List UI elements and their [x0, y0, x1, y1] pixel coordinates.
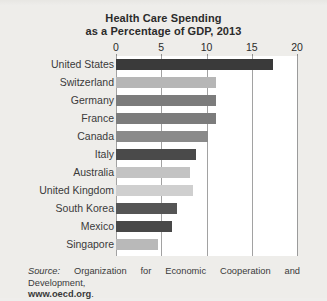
scan-edge-artifact: [0, 0, 327, 6]
bar: [116, 203, 177, 214]
bar: [116, 167, 190, 178]
x-tick-label-5: 5: [158, 41, 164, 53]
bar-row: South Korea: [0, 200, 327, 218]
bar-row: United Kingdom: [0, 182, 327, 200]
chart-title-line-1: Health Care Spending: [0, 12, 327, 25]
category-label: South Korea: [56, 202, 114, 214]
category-label: Italy: [95, 148, 114, 160]
category-label: Mexico: [81, 220, 114, 232]
source-note: Source: Organization for Economic Cooper…: [28, 266, 300, 301]
source-period: .: [91, 289, 94, 299]
bar: [116, 113, 216, 124]
bar-row: United States: [0, 56, 327, 74]
bar: [116, 77, 216, 88]
source-line-1: Source: Organization for Economic Cooper…: [28, 266, 300, 289]
category-label: United Kingdom: [39, 184, 114, 196]
category-label: France: [81, 112, 114, 124]
category-label: United States: [51, 58, 114, 70]
source-line-2: www.oecd.org.: [28, 289, 300, 301]
bar: [116, 221, 172, 232]
x-tick-label-0: 0: [113, 41, 119, 53]
category-label: Canada: [77, 130, 114, 142]
bar-row: Singapore: [0, 236, 327, 254]
x-tick-label-10: 10: [201, 41, 213, 53]
bar-row: Mexico: [0, 218, 327, 236]
bar: [116, 131, 208, 142]
bar-row: Germany: [0, 92, 327, 110]
bar-row: Switzerland: [0, 74, 327, 92]
bar: [116, 239, 158, 250]
bar-row: France: [0, 110, 327, 128]
bar: [116, 185, 193, 196]
source-label: Source:: [28, 266, 60, 276]
category-label: Switzerland: [60, 76, 114, 88]
bar-rows: United StatesSwitzerlandGermanyFranceCan…: [0, 56, 327, 256]
x-tick-label-15: 15: [246, 41, 258, 53]
category-label: Singapore: [66, 238, 114, 250]
source-url: www.oecd.org: [28, 289, 91, 299]
chart-title: Health Care Spending as a Percentage of …: [0, 12, 327, 38]
bar: [116, 149, 196, 160]
source-body: Organization for Economic Cooperation an…: [28, 266, 300, 288]
category-label: Australia: [73, 166, 114, 178]
chart-title-line-2: as a Percentage of GDP, 2013: [0, 25, 327, 38]
bar-row: Australia: [0, 164, 327, 182]
x-axis: 05101520: [0, 41, 327, 55]
bar-row: Italy: [0, 146, 327, 164]
bar-row: Canada: [0, 128, 327, 146]
bar: [116, 95, 216, 106]
category-label: Germany: [71, 94, 114, 106]
bar: [116, 59, 273, 70]
x-tick-label-20: 20: [291, 41, 303, 53]
